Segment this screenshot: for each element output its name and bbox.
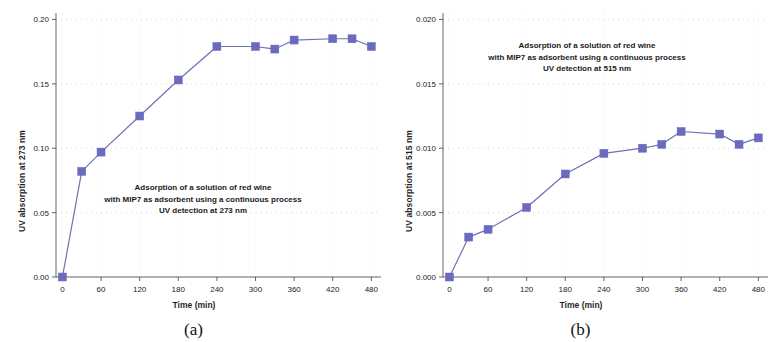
x-tick-label: 360: [674, 285, 688, 294]
y-tick-label: 0.000: [416, 273, 437, 282]
x-tick-label: 0: [60, 285, 65, 294]
data-point-marker: [465, 233, 473, 241]
x-axis-title-a: Time (min): [24, 300, 364, 310]
data-point-marker: [252, 42, 260, 50]
y-tick-label: 0.015: [416, 80, 437, 89]
y-tick-label: 0.020: [416, 15, 437, 24]
data-point-marker: [136, 112, 144, 120]
data-point-marker: [716, 130, 724, 138]
data-point-marker: [523, 203, 531, 211]
x-tick-label: 240: [597, 285, 611, 294]
data-point-marker: [484, 225, 492, 233]
x-tick-label: 120: [133, 285, 147, 294]
subfigure-label-a: (a): [0, 320, 387, 340]
y-tick-label: 0.20: [33, 15, 49, 24]
x-tick-label: 300: [249, 285, 263, 294]
data-point-marker: [600, 149, 608, 157]
chart-annotation-b: Adsorption of a solution of red wine wit…: [442, 40, 732, 75]
x-tick-label: 360: [287, 285, 301, 294]
data-point-marker: [78, 167, 86, 175]
x-axis-title-b: Time (min): [411, 300, 751, 310]
annotation-line-2: with MIP7 as adsorbent using a continuou…: [442, 52, 732, 64]
x-tick-label: 0: [447, 285, 452, 294]
x-tick-label: 420: [713, 285, 727, 294]
annotation-line-2: with MIP7 as adsorbent using a continuou…: [58, 194, 348, 206]
data-point-marker: [735, 140, 743, 148]
data-point-marker: [97, 148, 105, 156]
y-axis-title-b: UV absorption at 515 nm: [404, 130, 414, 232]
x-tick-label: 60: [97, 285, 106, 294]
data-point-marker: [677, 127, 685, 135]
annotation-line-3: UV detection at 273 nm: [58, 205, 348, 217]
data-point-marker: [290, 36, 298, 44]
y-tick-label: 0.005: [416, 209, 437, 218]
data-point-marker: [561, 170, 569, 178]
chart-panel-b: 0.0000.0050.0100.0150.020060120180240300…: [387, 0, 774, 342]
chart-annotation-a: Adsorption of a solution of red wine wit…: [58, 182, 348, 217]
y-axis-title-a: UV absorption at 273 nm: [17, 130, 27, 232]
data-point-marker: [639, 144, 647, 152]
chart-panel-a: 0.000.050.100.150.2006012018024030036042…: [0, 0, 387, 342]
plot-area-a: 0.000.050.100.150.2006012018024030036042…: [0, 0, 387, 310]
y-tick-label: 0.010: [416, 144, 437, 153]
annotation-line-1: Adsorption of a solution of red wine: [442, 40, 732, 52]
y-tick-label: 0.15: [33, 80, 49, 89]
data-point-marker: [271, 45, 279, 53]
data-point-marker: [58, 273, 66, 281]
annotation-line-3: UV detection at 515 nm: [442, 63, 732, 75]
x-tick-label: 60: [484, 285, 493, 294]
data-point-marker: [754, 134, 762, 142]
x-tick-label: 420: [326, 285, 340, 294]
data-point-marker: [213, 42, 221, 50]
data-point-marker: [174, 76, 182, 84]
x-tick-label: 180: [559, 285, 573, 294]
x-tick-label: 300: [636, 285, 650, 294]
data-point-marker: [348, 35, 356, 43]
data-point-marker: [658, 140, 666, 148]
subfigure-label-b: (b): [387, 320, 774, 340]
x-tick-label: 120: [520, 285, 534, 294]
data-point-marker: [367, 42, 375, 50]
figure-container: 0.000.050.100.150.2006012018024030036042…: [0, 0, 774, 342]
x-tick-label: 480: [752, 285, 766, 294]
data-point-marker: [329, 35, 337, 43]
x-tick-label: 240: [210, 285, 224, 294]
y-tick-label: 0.00: [33, 273, 49, 282]
data-point-marker: [445, 273, 453, 281]
y-tick-label: 0.10: [33, 144, 49, 153]
x-tick-label: 180: [172, 285, 186, 294]
annotation-line-1: Adsorption of a solution of red wine: [58, 182, 348, 194]
y-tick-label: 0.05: [33, 209, 49, 218]
chart-svg-a: 0.000.050.100.150.2006012018024030036042…: [0, 0, 387, 310]
x-tick-label: 480: [365, 285, 379, 294]
